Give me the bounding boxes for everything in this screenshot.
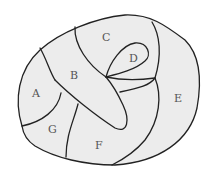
region-label-e: E <box>174 92 182 105</box>
region-label-a: A <box>31 87 41 100</box>
map-svg: A B C D E F G <box>0 0 213 179</box>
region-label-c: C <box>102 31 110 44</box>
region-label-f: F <box>95 139 103 152</box>
region-label-d: D <box>129 52 138 65</box>
region-label-g: G <box>48 123 57 136</box>
map-diagram: A B C D E F G <box>0 0 213 179</box>
region-label-b: B <box>70 69 78 82</box>
